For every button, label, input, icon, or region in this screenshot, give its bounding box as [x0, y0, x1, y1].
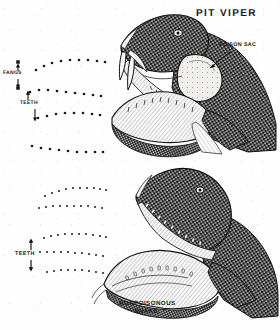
tooth-mark-dot: [59, 205, 61, 207]
tooth-mark-dot: [99, 114, 102, 117]
tooth-mark-dot: [52, 205, 54, 207]
tooth-mark-dot: [31, 145, 34, 148]
tooth-mark-dot: [102, 151, 105, 154]
teeth-lower-arrow-down: [29, 260, 34, 272]
tooth-mark-dot: [58, 190, 60, 192]
tooth-mark-dot: [93, 187, 95, 189]
tooth-mark-dot: [60, 60, 63, 63]
tooth-mark-dot: [74, 92, 77, 95]
tooth-mark-dot: [46, 251, 48, 253]
tooth-mark-dot: [51, 192, 53, 194]
tooth-mark-dot: [76, 151, 79, 154]
tooth-mark-dot: [69, 59, 72, 62]
tooth-mark-dot: [102, 272, 104, 274]
tooth-mark-dot: [91, 113, 94, 116]
tooth-mark-dot: [105, 236, 107, 238]
poisonous-tooth-dots: [29, 59, 107, 154]
tooth-mark-dot: [86, 187, 88, 189]
tooth-mark-dot: [37, 117, 40, 120]
tooth-mark-dot: [78, 233, 80, 235]
tooth-mark-dot: [51, 62, 54, 65]
nonpoisonous-pupil: [199, 189, 202, 192]
tooth-mark-dot: [94, 151, 97, 154]
callout-fangs: FANGS: [3, 71, 22, 76]
tooth-mark-dot: [71, 233, 73, 235]
tooth-mark-dot: [95, 254, 97, 256]
tooth-mark-dot: [96, 60, 99, 63]
tooth-mark-dot: [87, 205, 89, 207]
tooth-mark-dot: [95, 271, 97, 273]
tooth-mark-dot: [92, 234, 94, 236]
tooth-mark-dot: [43, 65, 46, 68]
nonpoisonous-snake-head-figure: [92, 168, 278, 318]
tooth-mark-dot: [99, 235, 101, 237]
tooth-mark-dot: [67, 251, 69, 253]
tooth-mark-dot: [87, 59, 90, 62]
tooth-mark-dot: [88, 270, 90, 272]
tooth-mark-dot: [105, 189, 107, 191]
tooth-mark-dot: [56, 90, 59, 93]
tooth-mark-dot: [39, 251, 41, 253]
tooth-mark-dot: [102, 255, 104, 257]
snake-illustration-svg: [0, 0, 280, 330]
tooth-mark-dot: [65, 188, 67, 190]
tooth-mark-dot: [46, 271, 48, 273]
tooth-mark-dot: [40, 147, 43, 150]
tooth-mark-dot: [99, 188, 101, 190]
tooth-mark-dot: [81, 269, 83, 271]
tooth-mark-dot: [101, 207, 103, 209]
tooth-mark-dot: [60, 251, 62, 253]
tooth-mark-dot: [67, 269, 69, 271]
callout-teeth-lower: TEETH: [15, 252, 35, 258]
tooth-mark-dot: [80, 205, 82, 207]
nonpoisonous-upper-jaw: [136, 168, 232, 251]
tooth-mark-dot: [53, 270, 55, 272]
fang-puncture-mark: [16, 60, 20, 64]
tooth-mark-dot: [74, 252, 76, 254]
tooth-mark-dot: [74, 269, 76, 271]
tooth-mark-dot: [82, 112, 85, 115]
caption-line-2: SNAKE.: [119, 308, 176, 316]
callout-poison-sac: POISON SAC: [219, 43, 256, 49]
pit-viper-fang-front: [119, 52, 126, 80]
tooth-mark-dot: [78, 59, 81, 62]
tooth-mark-dot: [38, 89, 41, 92]
teeth-lower-arrow-up: [29, 238, 34, 250]
illustration-plate: PIT VIPER POISON SAC FANGS TEETH TEETH N…: [0, 0, 280, 330]
tooth-mark-dot: [57, 234, 59, 236]
tooth-mark-dot: [94, 206, 96, 208]
pit-viper-head-figure: [112, 15, 276, 157]
tooth-mark-dot: [65, 91, 68, 94]
tooth-mark-dot: [67, 150, 70, 153]
tooth-mark-dot: [58, 149, 61, 152]
tooth-mark-dot: [35, 69, 38, 72]
tooth-mark-dot: [73, 205, 75, 207]
tooth-mark-dot: [46, 115, 49, 118]
tooth-mark-dot: [72, 187, 74, 189]
tooth-mark-dot: [85, 151, 88, 154]
tooth-mark-dot: [100, 95, 103, 98]
caption-nonpoisonous-snake: NONPOISONOUS SNAKE.: [119, 300, 176, 317]
tooth-mark-dot: [88, 253, 90, 255]
teeth-upper-arrow-down: [33, 109, 37, 122]
tooth-mark-dot: [43, 237, 45, 239]
tooth-mark-dot: [83, 93, 86, 96]
caption-line-1: NONPOISONOUS: [119, 300, 176, 308]
pit-viper-pupil: [177, 32, 180, 35]
tooth-mark-dot: [55, 113, 58, 116]
tooth-mark-dot: [60, 269, 62, 271]
nonpoisonous-tooth-dots: [38, 187, 107, 274]
tooth-mark-dot: [104, 61, 107, 64]
tooth-mark-dot: [53, 251, 55, 253]
tooth-mark-dot: [73, 112, 76, 115]
tooth-mark-dot: [44, 195, 46, 197]
tooth-mark-dot: [81, 252, 83, 254]
tooth-mark-dot: [47, 89, 50, 92]
tooth-mark-dot: [64, 112, 67, 115]
nonpoisonous-bite-pattern-group: [29, 187, 107, 274]
tooth-mark-dot: [49, 148, 52, 151]
tooth-mark-dot: [66, 205, 68, 207]
page-title-pit-viper: PIT VIPER: [196, 9, 257, 20]
callout-teeth-upper: TEETH: [20, 101, 38, 106]
tooth-mark-dot: [45, 206, 47, 208]
